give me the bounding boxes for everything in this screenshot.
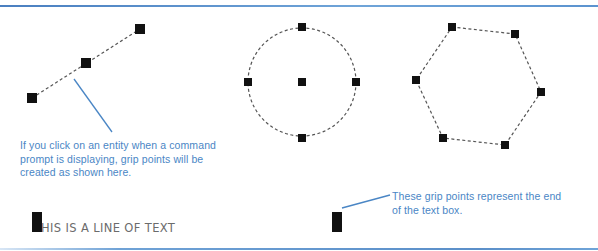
circle-grip-0[interactable]: [298, 78, 306, 86]
line-grip-0[interactable]: [27, 93, 37, 103]
line-grip-2[interactable]: [135, 24, 145, 34]
hexagon-grip-0[interactable]: [448, 23, 456, 31]
text-end-grip-top[interactable]: [332, 212, 342, 222]
leader-line-1: [74, 79, 112, 132]
hexagon-entity[interactable]: [416, 27, 541, 145]
circle-grip-1[interactable]: [298, 23, 306, 31]
hexagon-grip-5[interactable]: [412, 76, 420, 84]
cad-text-entity[interactable]: HIS IS A LINE OF TEXT: [41, 220, 175, 235]
circle-grip-2[interactable]: [244, 78, 252, 86]
dashed-hexagon: [416, 27, 541, 145]
callout-grip-creation: If you click on an entity when a command…: [20, 139, 230, 180]
circle-grip-3[interactable]: [352, 78, 360, 86]
leader-line-2: [342, 195, 390, 208]
hexagon-grip-2[interactable]: [537, 88, 545, 96]
hexagon-grip-3[interactable]: [501, 141, 509, 149]
callout-text-box-end: These grip points represent the end of t…: [392, 190, 562, 217]
hexagon-grip-4[interactable]: [439, 134, 447, 142]
grip-points[interactable]: [27, 23, 545, 149]
text-end-grip-bottom[interactable]: [332, 222, 342, 232]
circle-grip-4[interactable]: [298, 134, 306, 142]
line-grip-1[interactable]: [81, 58, 91, 68]
hexagon-grip-1[interactable]: [511, 30, 519, 38]
